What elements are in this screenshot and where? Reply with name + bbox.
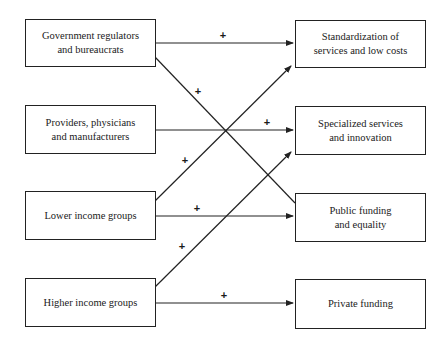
node-label-line: Private funding: [328, 297, 393, 311]
node-label-line: Providers, physicians: [46, 116, 136, 130]
node-label-line: Public funding: [329, 204, 391, 218]
node-higher-income: Higher income groups: [25, 278, 156, 327]
edge-sign-gov-pub: +: [193, 86, 203, 96]
edge-sign-high-priv: +: [219, 290, 229, 300]
node-label-line: Standardization of: [314, 30, 408, 44]
node-label-line: services and low costs: [314, 44, 408, 58]
edge-sign-high-spec: +: [177, 241, 187, 251]
edge-sign-low-pub: +: [192, 203, 202, 213]
edge-low-std: [155, 66, 291, 201]
node-label-line: Lower income groups: [44, 209, 136, 223]
node-private-funding: Private funding: [295, 279, 426, 329]
node-public-funding: Public fundingand equality: [295, 193, 426, 242]
node-standardization: Standardization ofservices and low costs: [295, 20, 426, 68]
node-government-regulators: Government regulatorsand bureaucrats: [25, 19, 156, 67]
node-label-line: and innovation: [318, 131, 403, 145]
node-label-line: Higher income groups: [44, 296, 138, 310]
node-specialized-services: Specialized servicesand innovation: [295, 106, 426, 155]
node-label-line: and bureaucrats: [42, 43, 139, 57]
edge-sign-prov-spec: +: [262, 117, 272, 127]
edge-sign-gov-std: +: [218, 30, 228, 40]
edge-sign-low-std: +: [180, 155, 190, 165]
edge-high-spec: [155, 152, 291, 287]
node-providers: Providers, physiciansand manufacturers: [25, 105, 156, 154]
node-label-line: Specialized services: [318, 117, 403, 131]
node-label-line: and equality: [329, 218, 391, 232]
node-label-line: Government regulators: [42, 29, 139, 43]
node-lower-income: Lower income groups: [25, 191, 156, 240]
node-label-line: and manufacturers: [46, 130, 136, 144]
